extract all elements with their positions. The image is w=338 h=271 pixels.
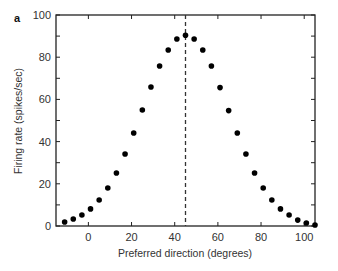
data-point — [286, 212, 292, 218]
data-point — [157, 63, 163, 69]
x-tick-label: 40 — [169, 231, 181, 243]
y-axis-label: Firing rate (spikes/sec) — [12, 68, 24, 174]
data-point — [131, 130, 137, 136]
data-point — [174, 36, 180, 42]
panel-label: a — [14, 12, 21, 24]
data-point — [260, 185, 266, 191]
x-tick-label: 100 — [295, 231, 313, 243]
y-tick-label: 80 — [39, 51, 51, 63]
y-tick-label: 20 — [39, 178, 51, 190]
data-point — [183, 32, 189, 38]
data-point — [88, 206, 94, 212]
data-point — [79, 212, 85, 218]
x-tick-label: 60 — [212, 231, 224, 243]
y-tick-label: 60 — [39, 93, 51, 105]
data-point — [209, 63, 215, 69]
data-point — [200, 47, 206, 53]
x-tick-label: 0 — [85, 231, 91, 243]
data-point — [252, 170, 258, 176]
data-point — [105, 185, 111, 191]
data-point — [217, 85, 223, 91]
data-point — [295, 217, 301, 223]
data-point — [235, 130, 241, 136]
data-point — [312, 222, 318, 228]
y-tick-label: 40 — [39, 136, 51, 148]
data-point — [122, 151, 128, 157]
data-point — [243, 151, 249, 157]
y-tick-label: 0 — [45, 220, 51, 232]
data-point — [278, 206, 284, 212]
data-point — [70, 216, 76, 222]
x-tick-label: 20 — [125, 231, 137, 243]
data-point — [62, 219, 68, 225]
data-point — [191, 36, 197, 42]
x-tick-label: 80 — [255, 231, 267, 243]
data-point — [269, 197, 275, 203]
data-point — [114, 170, 120, 176]
y-tick-label: 100 — [33, 9, 51, 21]
data-point — [226, 108, 232, 114]
firing-rate-chart: a 020406080100 020406080100 Preferred di… — [0, 0, 338, 271]
data-point — [148, 84, 154, 90]
data-points — [62, 32, 318, 227]
data-point — [96, 197, 102, 203]
x-axis-label: Preferred direction (degrees) — [118, 247, 252, 259]
data-point — [304, 220, 310, 226]
data-point — [165, 47, 171, 53]
data-point — [140, 107, 146, 113]
